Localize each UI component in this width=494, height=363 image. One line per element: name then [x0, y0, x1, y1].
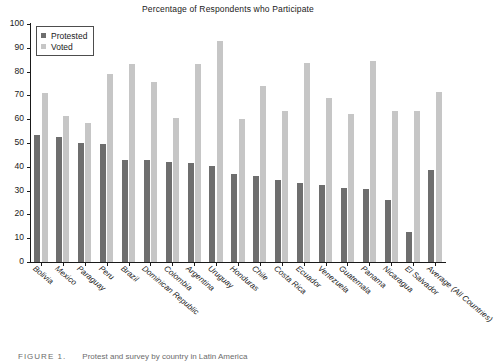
bar-protested[interactable] — [253, 176, 259, 262]
bar-protested[interactable] — [231, 174, 237, 262]
bar-group[interactable] — [96, 24, 118, 262]
bar-protested[interactable] — [341, 188, 347, 262]
bar-group[interactable] — [30, 24, 52, 262]
chart-legend: Protested Voted — [36, 26, 94, 56]
y-axis-tick-label: 90 — [0, 42, 24, 52]
bar-protested[interactable] — [297, 183, 303, 262]
legend-swatch-protested-icon — [41, 33, 46, 38]
x-axis-label: Mexico — [53, 264, 78, 287]
y-axis-tick-label: 40 — [0, 161, 24, 171]
bar-group[interactable] — [205, 24, 227, 262]
bar-group[interactable] — [271, 24, 293, 262]
bar-group[interactable] — [161, 24, 183, 262]
bar-voted[interactable] — [129, 64, 135, 262]
plot-area: 0102030405060708090100 — [30, 24, 446, 262]
bar-group[interactable] — [380, 24, 402, 262]
bar-protested[interactable] — [56, 137, 62, 262]
chart-title: Percentage of Respondents who Participat… — [0, 4, 456, 14]
bar-voted[interactable] — [63, 116, 69, 262]
bar-group[interactable] — [74, 24, 96, 262]
bar-voted[interactable] — [195, 64, 201, 262]
legend-item-voted: Voted — [41, 41, 87, 52]
bar-protested[interactable] — [428, 170, 434, 262]
bar-voted[interactable] — [282, 111, 288, 262]
bar-voted[interactable] — [370, 61, 376, 262]
bar-voted[interactable] — [151, 82, 157, 262]
x-axis-label: Brazil — [119, 264, 140, 284]
figure-caption-text: Protest and survey by country in Latin A… — [82, 352, 247, 361]
bar-voted[interactable] — [326, 98, 332, 262]
bar-voted[interactable] — [107, 74, 113, 262]
bar-voted[interactable] — [436, 92, 442, 262]
y-axis-tick-label: 60 — [0, 113, 24, 123]
bar-protested[interactable] — [209, 166, 215, 262]
y-axis-tick-label: 30 — [0, 185, 24, 195]
bar-protested[interactable] — [385, 200, 391, 262]
bar-protested[interactable] — [319, 185, 325, 262]
figure-caption: FIGURE 1. Protest and survey by country … — [18, 352, 448, 361]
bar-group[interactable] — [118, 24, 140, 262]
bar-voted[interactable] — [217, 41, 223, 262]
y-axis-tick-mark — [27, 262, 31, 263]
bar-voted[interactable] — [304, 63, 310, 262]
bar-group[interactable] — [52, 24, 74, 262]
bar-protested[interactable] — [363, 189, 369, 262]
x-axis-label: Bolivia — [31, 264, 55, 286]
bar-group[interactable] — [424, 24, 446, 262]
bar-group[interactable] — [315, 24, 337, 262]
figure-caption-label: FIGURE 1. — [18, 352, 66, 361]
bar-group[interactable] — [293, 24, 315, 262]
y-axis-tick-label: 0 — [0, 256, 24, 266]
bar-protested[interactable] — [34, 135, 40, 262]
bar-protested[interactable] — [78, 143, 84, 262]
bar-voted[interactable] — [392, 111, 398, 262]
y-axis-tick-label: 50 — [0, 137, 24, 147]
bar-group[interactable] — [336, 24, 358, 262]
bar-group[interactable] — [183, 24, 205, 262]
bar-group[interactable] — [227, 24, 249, 262]
bar-groups — [30, 24, 446, 262]
bar-voted[interactable] — [42, 93, 48, 262]
bar-protested[interactable] — [122, 160, 128, 262]
bar-voted[interactable] — [85, 123, 91, 262]
bar-voted[interactable] — [239, 119, 245, 262]
bar-protested[interactable] — [166, 162, 172, 262]
bar-protested[interactable] — [406, 232, 412, 262]
bar-protested[interactable] — [275, 180, 281, 262]
y-axis-tick-label: 10 — [0, 232, 24, 242]
legend-item-protested: Protested — [41, 30, 87, 41]
bar-voted[interactable] — [173, 118, 179, 262]
legend-label-protested: Protested — [51, 31, 87, 41]
bar-protested[interactable] — [144, 160, 150, 262]
y-axis-tick-label: 100 — [0, 18, 24, 28]
y-axis-tick-label: 70 — [0, 89, 24, 99]
bar-group[interactable] — [139, 24, 161, 262]
bar-group[interactable] — [249, 24, 271, 262]
bar-protested[interactable] — [188, 163, 194, 262]
bar-voted[interactable] — [414, 111, 420, 262]
x-axis-labels: BoliviaMexicoParaguayPeruBrazilDominican… — [30, 264, 446, 360]
bar-voted[interactable] — [348, 114, 354, 262]
y-axis-tick-label: 80 — [0, 66, 24, 76]
bar-group[interactable] — [402, 24, 424, 262]
bar-group[interactable] — [358, 24, 380, 262]
y-axis-tick-label: 20 — [0, 208, 24, 218]
legend-label-voted: Voted — [51, 42, 73, 52]
bar-voted[interactable] — [260, 86, 266, 262]
bar-protested[interactable] — [100, 144, 106, 262]
legend-swatch-voted-icon — [41, 44, 46, 49]
